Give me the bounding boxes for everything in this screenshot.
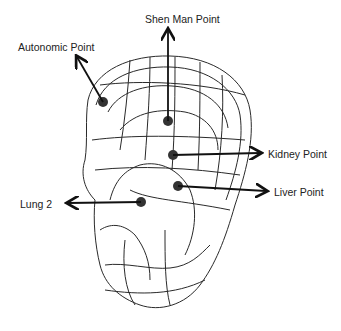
label-autonomic: Autonomic Point (18, 41, 94, 53)
acupoints (98, 97, 183, 207)
label-liver: Liver Point (274, 186, 324, 198)
label-kidney: Kidney Point (268, 148, 327, 160)
label-shen-man: Shen Man Point (145, 13, 220, 25)
lung2-arrow (68, 202, 141, 203)
ear-diagram: Shen Man Point Autonomic Point Kidney Po… (0, 0, 341, 331)
kidney-arrow (173, 153, 260, 155)
label-lung2: Lung 2 (20, 198, 52, 210)
liver-arrow (178, 186, 266, 191)
